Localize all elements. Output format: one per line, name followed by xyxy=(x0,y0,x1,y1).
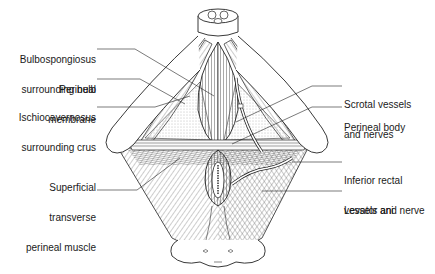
label-ischiocavernosus: Ischiocavernosus surrounding crus xyxy=(4,93,96,173)
transverse-perineal-band xyxy=(128,140,308,150)
penis-cross-section xyxy=(198,9,238,36)
label-text: Levator ani xyxy=(344,206,393,216)
label-perineal-body: Perineal body xyxy=(344,103,405,153)
label-text: transverse xyxy=(4,213,96,223)
label-text: Ischiocavernosus xyxy=(4,113,96,123)
label-text: perineal muscle xyxy=(4,243,96,253)
label-text: Superficial xyxy=(4,183,96,193)
label-text: Inferior rectal xyxy=(344,176,425,186)
anatomy-diagram: Bulbospongiosus surrounding bulb Perinea… xyxy=(0,0,435,274)
buttock-outline xyxy=(171,240,265,267)
label-text: Perineal body xyxy=(344,123,405,133)
label-text: surrounding crus xyxy=(4,143,96,153)
label-superficial-transverse: Superficial transverse perineal muscle xyxy=(4,163,96,273)
label-levator-ani: Levator ani xyxy=(344,186,393,236)
label-text: Bulbospongiosus xyxy=(4,55,96,65)
